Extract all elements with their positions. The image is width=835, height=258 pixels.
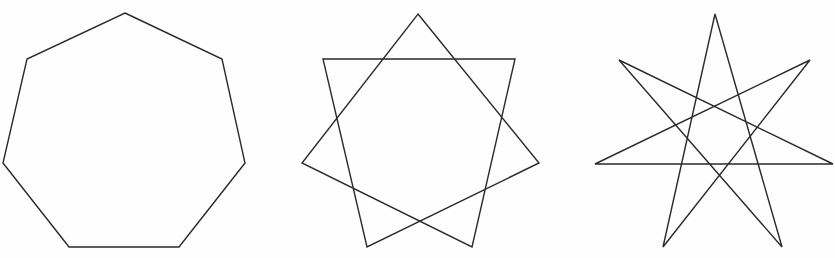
heptagon-shape [3,13,245,247]
figure-canvas [0,0,835,258]
heptagram-7-3-shape [595,14,833,247]
heptagram-7-2-shape [302,14,539,247]
figure-svg [0,0,835,258]
